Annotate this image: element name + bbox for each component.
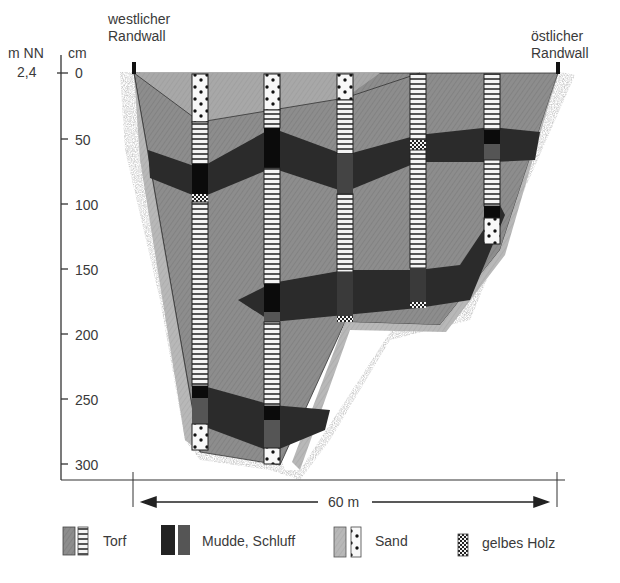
core-3 <box>337 74 353 322</box>
core-4 <box>410 74 426 308</box>
legend-label-torf: Torf <box>103 533 126 550</box>
core-1 <box>192 74 208 450</box>
legend-label-sand: Sand <box>375 533 408 550</box>
west-randwall-post <box>132 62 136 74</box>
legend-swatch-torf <box>63 527 88 555</box>
depth-axis-ticks <box>57 73 68 464</box>
core-5 <box>484 74 500 244</box>
scale-label: 60 m <box>328 494 359 511</box>
east-randwall-post <box>556 62 560 74</box>
core-2 <box>264 74 280 464</box>
legend-swatch-mudde <box>161 525 190 555</box>
legend-swatch-sand <box>334 527 361 557</box>
cross-section-figure <box>0 0 620 583</box>
legend-swatch-holz <box>458 534 468 556</box>
legend-label-mudde: Mudde, Schluff <box>202 533 295 550</box>
legend-label-holz: gelbes Holz <box>482 535 555 552</box>
